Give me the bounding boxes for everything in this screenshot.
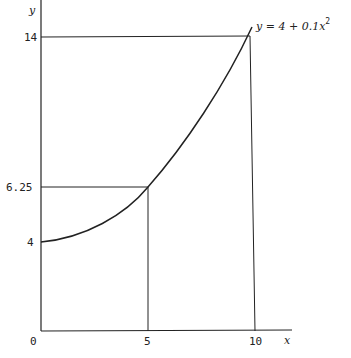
equation-exponent: 2 <box>325 17 330 26</box>
y-axis-label: y <box>28 4 36 17</box>
equation-text: y = 4 + 0.1x <box>255 20 326 33</box>
x-axis <box>41 330 292 331</box>
ref-line-y14 <box>41 36 250 37</box>
curve <box>41 27 252 242</box>
y-tick-4: 4 <box>27 236 34 249</box>
chart: y 14 6.25 4 0 5 10 x y = 4 + 0.1x2 <box>0 0 351 358</box>
x-tick-5: 5 <box>144 335 151 348</box>
x-tick-10: 10 <box>249 335 262 348</box>
y-tick-14: 14 <box>24 31 38 44</box>
ref-line-x10 <box>250 36 255 331</box>
origin-label: 0 <box>30 335 37 348</box>
y-tick-6.25: 6.25 <box>6 181 33 194</box>
equation-label: y = 4 + 0.1x2 <box>255 17 330 33</box>
x-axis-label: x <box>284 334 291 347</box>
